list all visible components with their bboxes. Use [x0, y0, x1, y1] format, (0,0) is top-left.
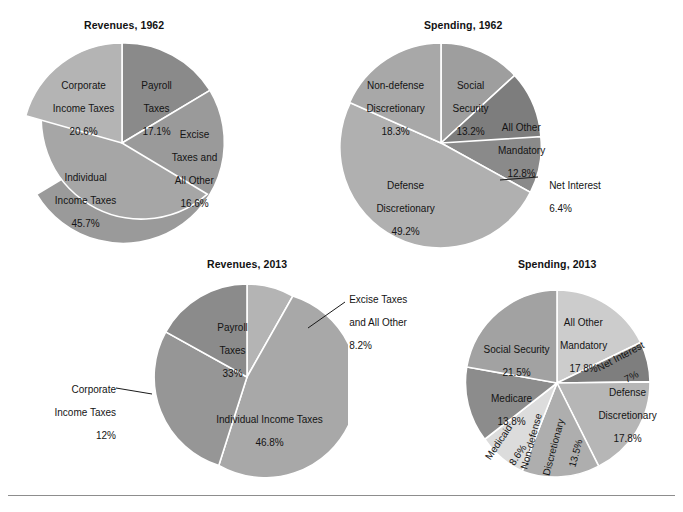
pie-chart-figure: Revenues, 1962 Payroll Taxes 17.1% Excis…	[0, 0, 683, 512]
label-line: Payroll	[141, 80, 172, 91]
label-corporate-income-taxes-2013: Corporate Income Taxes 12%	[18, 372, 116, 453]
label-value: 8.6%	[507, 442, 529, 467]
label-line: All Other	[502, 122, 541, 133]
label-payroll-taxes-2013: Payroll Taxes 33%	[196, 310, 258, 391]
label-value: 13.5%	[567, 438, 585, 468]
label-line: Net Interest	[549, 180, 601, 191]
label-value: 45.7%	[71, 218, 99, 229]
chart-title-revenues-1962: Revenues, 1962	[84, 19, 164, 31]
label-net-interest-1962: Net Interest 6.4%	[538, 168, 618, 226]
label-line: Excise	[180, 129, 209, 140]
label-line: Income Taxes	[54, 407, 116, 418]
label-line: Defense	[387, 180, 424, 191]
label-individual-income-taxes-2013: Individual Income Taxes 46.8%	[194, 402, 334, 460]
label-line: Excise Taxes	[349, 294, 407, 305]
label-line: Taxes	[219, 345, 245, 356]
chart-title-revenues-2013: Revenues, 2013	[207, 258, 287, 270]
label-value: 6.4%	[549, 203, 572, 214]
label-value: 21.5%	[502, 367, 530, 378]
label-value: 18.3%	[381, 126, 409, 137]
leader-line-corporate-income-taxes-2013	[116, 384, 164, 400]
label-value: 12%	[96, 430, 116, 441]
label-value: 8.2%	[349, 340, 372, 351]
label-line: Discretionary	[540, 418, 566, 477]
label-value: 13.8%	[497, 416, 525, 427]
label-line: Taxes	[143, 103, 169, 114]
label-line: Individual	[64, 172, 106, 183]
label-line: Mandatory	[498, 145, 545, 156]
label-line: Non-defense	[367, 80, 424, 91]
label-line: Income Taxes	[53, 103, 115, 114]
chart-title-spending-1962: Spending, 1962	[424, 19, 502, 31]
label-line: Corporate	[72, 384, 116, 395]
label-line: Taxes and	[172, 152, 218, 163]
footer-divider	[8, 495, 675, 496]
label-line: Discretionary	[366, 103, 424, 114]
label-social-security-2013: Social Security 21.5%	[466, 332, 556, 390]
label-line: Corporate	[61, 80, 105, 91]
label-line: Discretionary	[598, 410, 656, 421]
label-line: and All Other	[349, 317, 407, 328]
label-value: 17.8%	[613, 433, 641, 444]
label-non-defense-discretionary-1962: Non-defense Discretionary 18.3%	[346, 68, 434, 149]
label-value: 16.6%	[180, 198, 208, 209]
label-line: Income Taxes	[55, 195, 117, 206]
chart-title-spending-2013: Spending, 2013	[518, 258, 596, 270]
label-defense-discretionary-1962: Defense Discretionary 49.2%	[352, 168, 448, 249]
label-line: All Other	[175, 175, 214, 186]
label-line: Individual Income Taxes	[216, 414, 323, 425]
label-value: 49.2%	[391, 226, 419, 237]
label-corporate-income-taxes-1962: Corporate Income Taxes 20.6%	[30, 68, 126, 149]
label-value: 33%	[223, 368, 243, 379]
label-line: Defense	[609, 387, 646, 398]
label-individual-income-taxes-1962: Individual Income Taxes 45.7%	[32, 160, 128, 241]
label-line: Discretionary	[376, 203, 434, 214]
label-line: Social	[457, 80, 484, 91]
label-line: Medicare	[491, 393, 532, 404]
label-value: 20.6%	[69, 126, 97, 137]
label-line: Payroll	[217, 322, 248, 333]
label-excise-taxes-2013: Excise Taxes and All Other 8.2%	[338, 282, 428, 363]
label-excise-taxes-1962: Excise Taxes and All Other 16.6%	[155, 117, 223, 221]
label-value: 46.8%	[255, 437, 283, 448]
label-line: All Other	[564, 317, 603, 328]
label-line: Social Security	[483, 344, 549, 355]
